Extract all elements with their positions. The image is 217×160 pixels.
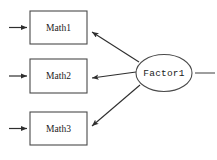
loading-path-factor1-math2[interactable] — [92, 72, 136, 78]
loading-path-factor1-math1[interactable] — [92, 32, 139, 62]
loading-path-group — [92, 32, 140, 126]
observed-node-math1[interactable]: Math1 — [30, 11, 87, 44]
node-label-factor1: Factor1 — [143, 68, 184, 79]
observed-node-math2[interactable]: Math2 — [30, 59, 87, 93]
diagram-svg: Math1 Math2 Math3 Factor1 — [0, 0, 217, 160]
node-label-math2: Math2 — [46, 71, 71, 81]
observed-node-math3[interactable]: Math3 — [30, 112, 87, 145]
path-diagram-canvas: Math1 Math2 Math3 Factor1 — [0, 0, 217, 160]
node-label-math1: Math1 — [46, 23, 71, 33]
residual-arrow-group — [9, 28, 27, 129]
loading-path-factor1-math3[interactable] — [92, 85, 140, 126]
node-label-math3: Math3 — [46, 124, 71, 134]
latent-node-factor1[interactable]: Factor1 — [136, 55, 192, 92]
